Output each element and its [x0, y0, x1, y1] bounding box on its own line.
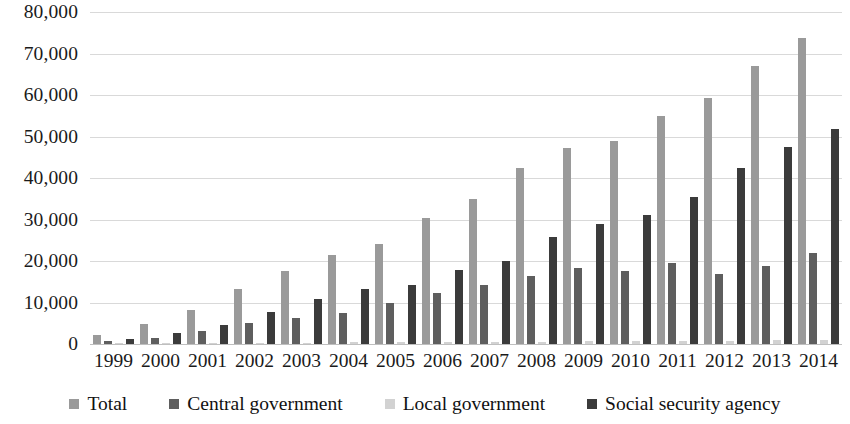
bar[interactable] — [256, 343, 264, 344]
bar[interactable] — [397, 342, 405, 344]
bar-group — [184, 12, 231, 344]
bar[interactable] — [433, 293, 441, 344]
bar[interactable] — [527, 276, 535, 344]
legend-item[interactable]: Central government — [169, 394, 342, 414]
bar[interactable] — [361, 289, 369, 344]
bar[interactable] — [444, 342, 452, 344]
x-tick-label: 2002 — [231, 346, 278, 378]
bar-group — [701, 12, 748, 344]
x-tick-label: 1999 — [90, 346, 137, 378]
bar[interactable] — [173, 333, 181, 344]
bar[interactable] — [820, 340, 828, 344]
bar[interactable] — [455, 270, 463, 344]
bar[interactable] — [187, 310, 195, 344]
bar[interactable] — [339, 313, 347, 344]
bar[interactable] — [632, 341, 640, 344]
bar[interactable] — [502, 261, 510, 344]
y-tick-label: 70,000 — [24, 44, 78, 64]
x-tick-label: 2001 — [184, 346, 231, 378]
bar-group — [90, 12, 137, 344]
bar[interactable] — [621, 271, 629, 344]
axis-baseline — [90, 344, 842, 345]
bar[interactable] — [538, 342, 546, 344]
bar[interactable] — [422, 218, 430, 344]
x-tick-label: 2010 — [607, 346, 654, 378]
bar[interactable] — [151, 338, 159, 344]
bar[interactable] — [469, 199, 477, 344]
bar-group — [325, 12, 372, 344]
bar[interactable] — [784, 147, 792, 344]
bar[interactable] — [574, 268, 582, 344]
bar[interactable] — [831, 129, 839, 344]
y-tick-label: 80,000 — [24, 2, 78, 22]
bar[interactable] — [668, 263, 676, 344]
legend-item[interactable]: Local government — [385, 394, 545, 414]
bar[interactable] — [798, 38, 806, 344]
bar[interactable] — [267, 312, 275, 344]
bar[interactable] — [303, 343, 311, 344]
bar[interactable] — [657, 116, 665, 344]
y-tick-label: 40,000 — [24, 168, 78, 188]
bar[interactable] — [281, 271, 289, 344]
bar[interactable] — [679, 341, 687, 344]
bar[interactable] — [516, 168, 524, 344]
bar-group — [748, 12, 795, 344]
y-tick-label: 30,000 — [24, 210, 78, 230]
bar[interactable] — [704, 98, 712, 345]
legend-label: Central government — [187, 394, 342, 414]
bar[interactable] — [690, 197, 698, 344]
bar[interactable] — [596, 224, 604, 344]
legend-label: Local government — [403, 394, 545, 414]
bar[interactable] — [209, 343, 217, 344]
bar[interactable] — [104, 341, 112, 344]
bar[interactable] — [126, 339, 134, 344]
bar[interactable] — [93, 335, 101, 344]
chart-legend: TotalCentral governmentLocal governmentS… — [0, 388, 850, 420]
y-tick-label: 10,000 — [24, 293, 78, 313]
bar[interactable] — [115, 343, 123, 344]
legend-swatch-icon — [169, 399, 179, 409]
bar[interactable] — [809, 253, 817, 344]
bar-group — [137, 12, 184, 344]
bar[interactable] — [480, 285, 488, 344]
bar-group — [419, 12, 466, 344]
x-tick-label: 2012 — [701, 346, 748, 378]
bar[interactable] — [563, 148, 571, 344]
x-axis: 1999200020012002200320042005200620072008… — [90, 346, 842, 378]
bar[interactable] — [245, 323, 253, 344]
bar[interactable] — [737, 168, 745, 344]
bar[interactable] — [198, 331, 206, 344]
legend-item[interactable]: Social security agency — [587, 394, 780, 414]
legend-swatch-icon — [587, 399, 597, 409]
bar[interactable] — [762, 266, 770, 344]
bar-group — [795, 12, 842, 344]
bar[interactable] — [162, 343, 170, 344]
bar[interactable] — [715, 274, 723, 344]
bar-group — [513, 12, 560, 344]
bar[interactable] — [491, 342, 499, 344]
y-tick-label: 20,000 — [24, 251, 78, 271]
bar[interactable] — [314, 299, 322, 344]
bar[interactable] — [350, 342, 358, 344]
bar[interactable] — [643, 215, 651, 344]
bar[interactable] — [585, 341, 593, 344]
bar[interactable] — [234, 289, 242, 344]
bar[interactable] — [292, 318, 300, 344]
bar[interactable] — [386, 303, 394, 344]
bar[interactable] — [328, 255, 336, 344]
bar[interactable] — [140, 324, 148, 344]
bar[interactable] — [408, 285, 416, 344]
bar[interactable] — [726, 341, 734, 344]
bar[interactable] — [610, 141, 618, 344]
legend-swatch-icon — [69, 399, 79, 409]
bar[interactable] — [375, 244, 383, 344]
bar[interactable] — [773, 340, 781, 344]
bar-groups — [90, 12, 842, 344]
x-tick-label: 2005 — [372, 346, 419, 378]
bar-group — [372, 12, 419, 344]
bar[interactable] — [751, 66, 759, 344]
bar[interactable] — [220, 325, 228, 344]
y-tick-label: 0 — [68, 334, 78, 354]
legend-item[interactable]: Total — [69, 394, 127, 414]
bar[interactable] — [549, 237, 557, 344]
